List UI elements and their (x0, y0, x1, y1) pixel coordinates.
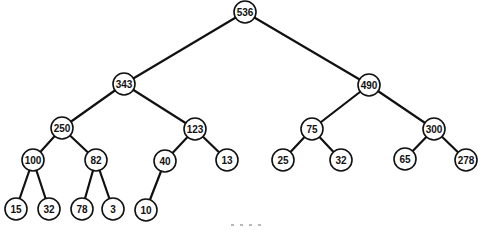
tree-node: 536 (234, 1, 256, 23)
node-value: 123 (187, 124, 204, 135)
node-value: 15 (10, 204, 22, 215)
tree-node: 40 (154, 150, 176, 172)
node-value: 32 (335, 155, 347, 166)
node-value: 3 (110, 204, 116, 215)
tree-node: 123 (184, 118, 206, 140)
node-value: 78 (76, 204, 88, 215)
node-value: 536 (237, 7, 254, 18)
node-value: 100 (25, 155, 42, 166)
clipped-caption-marks (226, 224, 266, 228)
tree-node: 65 (394, 148, 416, 170)
edges-layer (16, 12, 466, 210)
tree-node: 278 (455, 149, 477, 171)
caption-mark (249, 224, 252, 226)
node-value: 32 (43, 204, 55, 215)
tree-node: 3 (102, 198, 124, 220)
tree-node: 32 (38, 198, 60, 220)
node-value: 300 (426, 124, 443, 135)
tree-node: 75 (301, 118, 323, 140)
binary-tree-diagram: 5363434902501237530010082401325326527815… (0, 0, 484, 233)
node-value: 490 (361, 80, 378, 91)
caption-mark (240, 224, 243, 226)
tree-node: 10 (135, 199, 157, 221)
tree-node: 15 (5, 198, 27, 220)
node-value: 10 (140, 205, 152, 216)
caption-mark (258, 224, 261, 226)
node-value: 40 (159, 156, 171, 167)
tree-node: 13 (216, 149, 238, 171)
tree-edge (124, 12, 245, 84)
tree-node: 78 (71, 198, 93, 220)
node-value: 82 (90, 155, 102, 166)
caption-mark (231, 224, 234, 226)
node-value: 13 (221, 155, 233, 166)
tree-node: 300 (423, 118, 445, 140)
node-value: 250 (54, 123, 71, 134)
tree-edge (124, 84, 195, 129)
node-value: 65 (399, 154, 411, 165)
tree-node: 490 (358, 74, 380, 96)
node-value: 75 (306, 124, 318, 135)
tree-node: 82 (85, 149, 107, 171)
tree-node: 100 (22, 149, 44, 171)
tree-node: 25 (272, 149, 294, 171)
node-value: 25 (277, 155, 289, 166)
tree-node: 32 (330, 149, 352, 171)
tree-node: 343 (113, 73, 135, 95)
tree-edge (245, 12, 369, 85)
node-value: 278 (458, 155, 475, 166)
node-value: 343 (116, 79, 133, 90)
tree-node: 250 (51, 117, 73, 139)
